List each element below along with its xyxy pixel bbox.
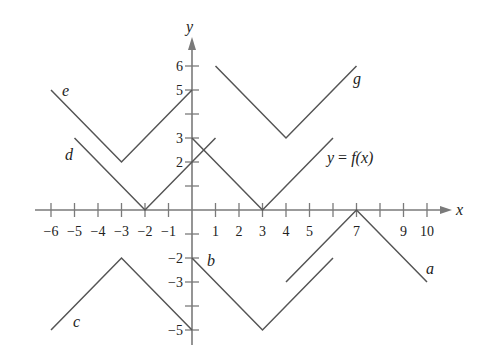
curve-label-b: b (207, 252, 215, 269)
x-axis-label: x (455, 201, 463, 218)
f-label-eq: = (334, 149, 351, 166)
x-axis-arrow-icon (440, 206, 452, 214)
x-tick-labels: −6−5−4−3−2−1123457910 (44, 224, 434, 239)
x-tick-label: 7 (353, 224, 360, 239)
x-tick-label: −5 (67, 224, 82, 239)
curve-label-c: c (73, 313, 80, 330)
curve-label-d: d (65, 146, 74, 163)
axes: −6−5−4−3−2−1123457910 6532−2−3−5 x y (35, 18, 463, 345)
y-axis-label: y (184, 18, 194, 36)
curve-labels: y = f(x) g e d c b a (62, 70, 434, 330)
curves (51, 66, 427, 330)
y-tick-label: −2 (168, 251, 183, 266)
curve-d (75, 138, 216, 210)
x-tick-label: 10 (420, 224, 434, 239)
x-tick-label: 5 (306, 224, 313, 239)
y-tick-label: −3 (168, 275, 183, 290)
y-axis-arrow-icon (188, 37, 196, 50)
curve-label-f: y = f(x) (325, 149, 373, 167)
curve-label-e: e (62, 82, 69, 99)
curve-g (216, 66, 357, 138)
x-tick-label: 2 (236, 224, 243, 239)
x-tick-label: 9 (400, 224, 407, 239)
graph-figure: −6−5−4−3−2−1123457910 6532−2−3−5 x y y =… (0, 0, 481, 355)
x-tick-label: −1 (161, 224, 176, 239)
x-tick-label: −3 (114, 224, 129, 239)
curve-label-g: g (353, 70, 361, 88)
y-tick-label: 6 (176, 59, 183, 74)
x-tick-label: 3 (259, 224, 266, 239)
curve-a (286, 210, 427, 282)
x-tick-label: −4 (91, 224, 106, 239)
curve-label-a: a (426, 260, 434, 277)
y-tick-label: 3 (176, 131, 183, 146)
x-tick-label: −6 (44, 224, 59, 239)
x-tick-label: 4 (283, 224, 290, 239)
y-tick-label: −5 (168, 323, 183, 338)
f-label-arg: (x) (356, 149, 374, 167)
x-tick-label: −2 (138, 224, 153, 239)
curve-f (192, 138, 333, 210)
y-tick-label: 5 (176, 83, 183, 98)
y-tick-label: 2 (176, 155, 183, 170)
x-tick-label: 1 (212, 224, 219, 239)
